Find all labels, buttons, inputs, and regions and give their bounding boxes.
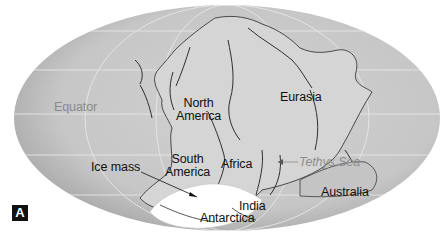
- label-antarctica: Antarctica: [200, 212, 255, 225]
- label-north-america: North America: [176, 97, 221, 123]
- label-africa: Africa: [221, 158, 252, 171]
- panel-label-badge: A: [12, 205, 28, 221]
- label-eurasia: Eurasia: [280, 91, 322, 104]
- label-north-america-line2: America: [176, 110, 221, 123]
- label-tethys-sea: Tethys Sea: [299, 156, 360, 169]
- label-equator: Equator: [54, 101, 97, 114]
- label-south-america-line2: America: [165, 166, 210, 179]
- label-australia: Australia: [321, 186, 369, 199]
- label-south-america: South America: [165, 153, 210, 179]
- label-ice-mass: Ice mass: [91, 161, 140, 174]
